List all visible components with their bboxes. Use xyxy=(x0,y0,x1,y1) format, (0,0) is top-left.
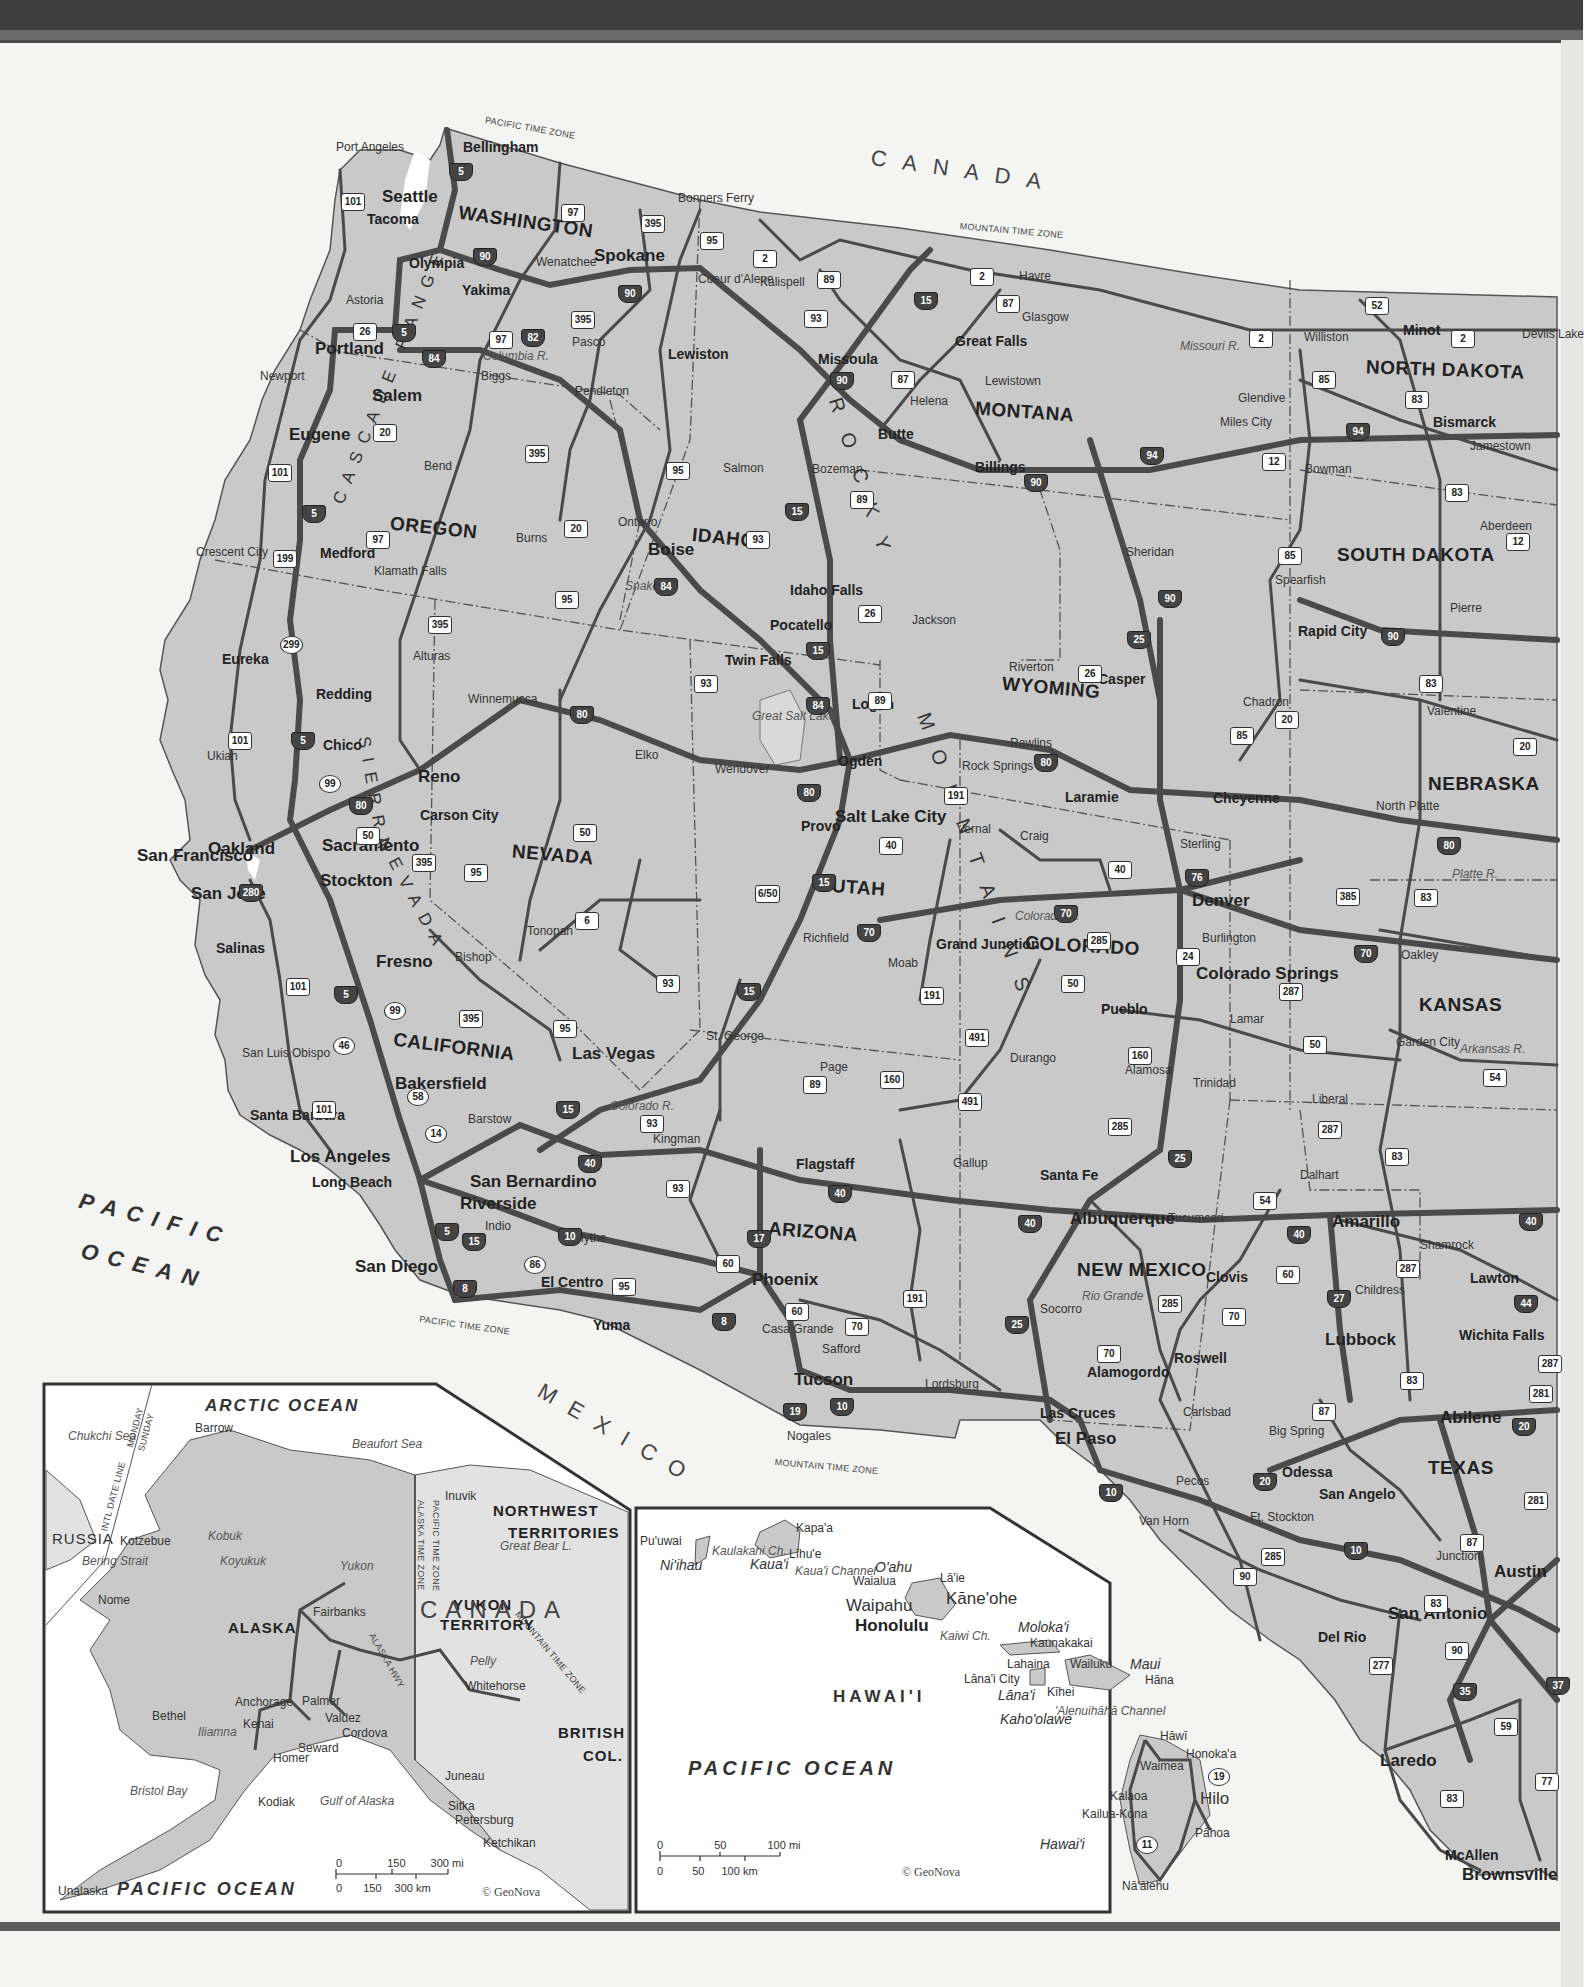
city-label-mcallen: McAllen xyxy=(1445,1848,1499,1862)
city-label-twin-falls: Twin Falls xyxy=(725,653,792,667)
hawaii-place-honoka-a: Honoka'a xyxy=(1186,1748,1236,1760)
hawaii-place-k-hei: Kīhei xyxy=(1047,1686,1074,1698)
city-label-lewistown: Lewistown xyxy=(985,375,1041,387)
city-label-big-spring: Big Spring xyxy=(1269,1425,1324,1437)
city-label-miles-city: Miles City xyxy=(1220,416,1272,428)
city-label-bonners-ferry: Bonners Ferry xyxy=(678,192,754,204)
city-label-barstow: Barstow xyxy=(468,1113,511,1125)
alaska-water-bering-strait: Bering Strait xyxy=(82,1555,148,1567)
interstate-shield-80-icon: 80 xyxy=(1437,837,1461,855)
us-shield-50-icon: 50 xyxy=(573,824,597,842)
scale-tick: 150 xyxy=(363,1882,381,1894)
us-shield-87-icon: 87 xyxy=(996,295,1020,313)
state-hwy-shield-46-icon: 46 xyxy=(333,1037,355,1055)
scale-tick: 0 xyxy=(336,1882,342,1894)
us-shield-395-icon: 395 xyxy=(641,215,665,233)
city-label-chico: Chico xyxy=(323,738,362,752)
city-label-los-angeles: Los Angeles xyxy=(290,1148,390,1165)
city-label-glasgow: Glasgow xyxy=(1022,311,1069,323)
water-label-platte-r: Platte R. xyxy=(1452,868,1498,880)
us-shield-95-icon: 95 xyxy=(464,864,488,882)
hawaii-island-maui: Maui xyxy=(1130,1657,1160,1671)
us-shield-160-icon: 160 xyxy=(880,1071,904,1089)
city-label-oakley: Oakley xyxy=(1401,949,1438,961)
alaska-water-iliamna: Iliamna xyxy=(198,1726,237,1738)
hawaii-place-pu-uwai: Pu'uwai xyxy=(640,1535,682,1547)
scale-tick: 300 mi xyxy=(431,1857,464,1869)
city-label-las-vegas: Las Vegas xyxy=(572,1045,655,1062)
city-label-portland: Portland xyxy=(315,340,384,357)
us-shield-6-50-icon: 6/50 xyxy=(755,885,780,903)
hawaii-title: HAWAI'I xyxy=(833,1688,926,1705)
city-label-north-platte: North Platte xyxy=(1376,800,1439,812)
city-label-vernal: Vernal xyxy=(957,823,991,835)
state-hwy-shield-99-icon: 99 xyxy=(319,775,341,793)
state-label-north-dakota: NORTH DAKOTA xyxy=(1366,357,1525,382)
us-shield-95-icon: 95 xyxy=(612,1278,636,1296)
interstate-shield-80-icon: 80 xyxy=(570,706,594,724)
city-label-long-beach: Long Beach xyxy=(312,1175,392,1189)
hawaii-channel-kaua-i-channel: Kaua'i Channel xyxy=(795,1565,876,1577)
city-label-bakersfield: Bakersfield xyxy=(395,1075,487,1092)
us-shield-93-icon: 93 xyxy=(656,975,680,993)
interstate-shield-25-icon: 25 xyxy=(1127,631,1151,649)
city-label-redding: Redding xyxy=(316,687,372,701)
city-label-burns: Burns xyxy=(516,532,547,544)
interstate-shield-84-icon: 84 xyxy=(806,697,830,715)
scale-tick: 50 xyxy=(714,1839,726,1851)
us-shield-85-icon: 85 xyxy=(1312,371,1336,389)
city-label-craig: Craig xyxy=(1020,830,1049,842)
us-shield-491-icon: 491 xyxy=(958,1093,982,1111)
state-label-south-dakota: SOUTH DAKOTA xyxy=(1337,545,1495,564)
interstate-shield-10-icon: 10 xyxy=(1344,1542,1368,1560)
city-label-wenatchee: Wenatchee xyxy=(536,256,597,268)
alaska-water-kobuk: Kobuk xyxy=(208,1530,242,1542)
city-label-durango: Durango xyxy=(1010,1052,1056,1064)
us-shield-87-icon: 87 xyxy=(1460,1534,1484,1552)
us-shield-89-icon: 89 xyxy=(868,692,892,710)
city-label-astoria: Astoria xyxy=(346,294,383,306)
us-shield-83-icon: 83 xyxy=(1405,391,1429,409)
city-label-lewiston: Lewiston xyxy=(668,347,729,361)
city-label-liberal: Liberal xyxy=(1312,1093,1348,1105)
us-shield-281-icon: 281 xyxy=(1529,1385,1553,1403)
hawaii-place-kaunakakai: Kaunakakai xyxy=(1030,1637,1093,1649)
us-shield-191-icon: 191 xyxy=(944,787,968,805)
city-label-ft-stockton: Ft. Stockton xyxy=(1250,1511,1314,1523)
us-shield-95-icon: 95 xyxy=(700,232,724,250)
city-label-kalispell: Kalispell xyxy=(760,276,805,288)
us-shield-54-icon: 54 xyxy=(1253,1192,1277,1210)
interstate-shield-10-icon: 10 xyxy=(830,1398,854,1416)
city-label-pendleton: Pendleton xyxy=(575,385,629,397)
us-shield-83-icon: 83 xyxy=(1414,889,1438,907)
city-label-missoula: Missoula xyxy=(818,352,878,366)
interstate-shield-15-icon: 15 xyxy=(785,503,809,521)
city-label-san-bernardino: San Bernardino xyxy=(470,1173,597,1190)
city-label-havre: Havre xyxy=(1019,270,1051,282)
hawaii-copyright: © GeoNova xyxy=(902,1866,960,1878)
hawaii-channel-kaulakahi-ch: Kaulakahi Ch. xyxy=(712,1545,787,1557)
us-shield-60-icon: 60 xyxy=(716,1255,740,1273)
city-label-kingman: Kingman xyxy=(653,1133,700,1145)
alaska-scale-km: 0 150 300 km xyxy=(336,1883,431,1894)
city-label-del-rio: Del Rio xyxy=(1318,1630,1366,1644)
city-label-salt-lake-city: Salt Lake City xyxy=(835,808,947,825)
us-shield-52-icon: 52 xyxy=(1365,297,1389,315)
hawaii-channel-kaiwi-ch: Kaiwi Ch. xyxy=(940,1630,991,1642)
city-label-crescent-city: Crescent City xyxy=(196,546,268,558)
alaska-place-ketchikan: Ketchikan xyxy=(483,1837,536,1849)
us-shield-12-icon: 12 xyxy=(1506,533,1530,551)
city-label-bowman: Bowman xyxy=(1305,463,1352,475)
city-label-rapid-city: Rapid City xyxy=(1298,624,1367,638)
city-label-riverside: Riverside xyxy=(460,1195,537,1212)
interstate-shield-90-icon: 90 xyxy=(618,285,642,303)
us-shield-97-icon: 97 xyxy=(561,204,585,222)
state-label-nebraska: NEBRASKA xyxy=(1428,774,1540,793)
city-label-safford: Safford xyxy=(822,1343,860,1355)
city-label-san-francisco: San Francisco xyxy=(137,847,253,864)
us-shield-70-icon: 70 xyxy=(1222,1308,1246,1326)
city-label-casper: Casper xyxy=(1098,672,1145,686)
city-label-indio: Indio xyxy=(485,1220,511,1232)
city-label-jackson: Jackson xyxy=(912,614,956,626)
